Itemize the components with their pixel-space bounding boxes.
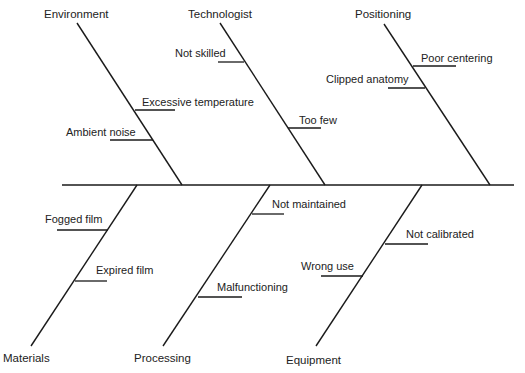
cause-label-not-maintained: Not maintained: [272, 198, 346, 211]
cause-label-expired-film: Expired film: [96, 264, 153, 277]
cause-branches: [57, 62, 456, 297]
cause-label-fogged-film: Fogged film: [45, 213, 102, 226]
rib-line-positioning: [384, 24, 490, 185]
category-label-processing: Processing: [134, 352, 191, 365]
category-label-positioning: Positioning: [355, 8, 411, 21]
cause-label-excessive-temperature: Excessive temperature: [142, 96, 254, 109]
cause-label-too-few: Too few: [299, 114, 337, 127]
cause-label-poor-centering: Poor centering: [421, 52, 493, 65]
category-label-equipment: Equipment: [286, 354, 341, 367]
cause-label-ambient-noise: Ambient noise: [66, 126, 136, 139]
cause-label-clipped-anatomy: Clipped anatomy: [326, 73, 409, 86]
fishbone-diagram: Environment Technologist Positioning Mat…: [0, 0, 525, 373]
cause-label-wrong-use: Wrong use: [301, 260, 354, 273]
category-label-technologist: Technologist: [188, 8, 252, 21]
cause-label-malfunctioning: Malfunctioning: [217, 281, 288, 294]
category-label-environment: Environment: [44, 8, 109, 21]
rib-line-processing: [163, 185, 270, 346]
category-label-materials: Materials: [3, 352, 50, 365]
cause-label-not-calibrated: Not calibrated: [406, 228, 474, 241]
cause-label-not-skilled: Not skilled: [175, 47, 226, 60]
